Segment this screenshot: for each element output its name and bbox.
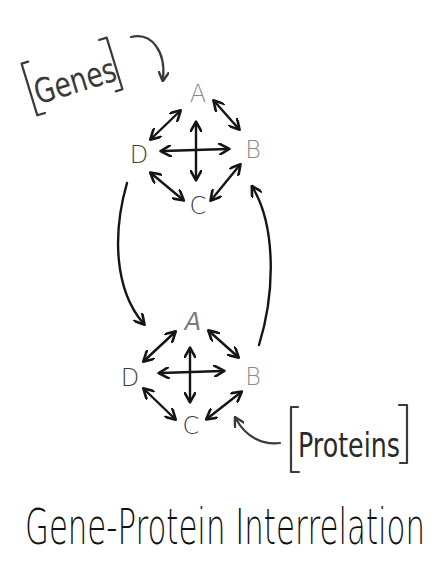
genes-label-text: Genes xyxy=(29,49,121,112)
genes-network: A B C D xyxy=(130,80,261,220)
genes-node-d: D xyxy=(130,141,148,169)
proteins-edge-b-c xyxy=(208,393,240,418)
genes-node-c: C xyxy=(190,192,207,220)
proteins-node-a: A xyxy=(183,308,201,336)
proteins-label: Proteins xyxy=(291,405,407,472)
proteins-node-c: C xyxy=(183,412,200,440)
genes-edge-a-b xyxy=(215,102,238,128)
genes-edge-d-b xyxy=(163,149,227,151)
genes-label: Genes xyxy=(22,38,123,116)
connection-proteins-to-genes xyxy=(253,188,271,345)
genes-pointer-arrow xyxy=(131,36,163,79)
genes-edge-d-a xyxy=(152,112,179,138)
genes-node-b: B xyxy=(245,136,261,164)
proteins-edge-d-b xyxy=(161,371,222,373)
genes-node-a: A xyxy=(190,80,206,108)
gene-protein-diagram: Genes A B C D A B C D Proteins G xyxy=(0,0,438,576)
proteins-edge-d-a xyxy=(145,333,174,360)
proteins-edge-d-c xyxy=(145,390,174,418)
diagram-title: Gene-Protein Interrelation xyxy=(25,498,425,556)
proteins-node-d: D xyxy=(121,364,139,392)
connection-genes-to-proteins xyxy=(118,183,143,323)
proteins-node-b: B xyxy=(245,363,261,391)
proteins-label-text: Proteins xyxy=(298,425,400,465)
proteins-bracket-right xyxy=(399,405,407,463)
genes-edge-b-c xyxy=(212,166,239,199)
proteins-network: A B C D xyxy=(121,308,261,440)
proteins-edge-a-b xyxy=(210,332,237,356)
proteins-pointer-arrow xyxy=(236,419,280,443)
genes-edge-d-c xyxy=(152,174,182,199)
